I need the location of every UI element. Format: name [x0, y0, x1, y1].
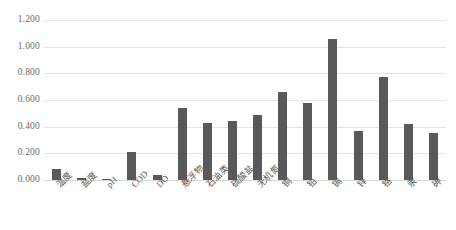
y-axis-tick-label: 0.600: [0, 95, 40, 105]
x-axis: 温度盐度pHCODDO悬浮物石油类硫酸盐无机氮铜铅镉锌铬汞砷: [44, 180, 446, 230]
bar: [278, 92, 287, 180]
bars-layer: [44, 20, 446, 180]
y-axis: 0.0000.2000.4000.6000.8001.0001.200: [0, 20, 40, 180]
bar: [178, 108, 187, 180]
bar: [379, 77, 388, 180]
bar: [354, 131, 363, 180]
y-axis-tick-label: 1.200: [0, 15, 40, 25]
bar: [429, 133, 438, 180]
y-axis-tick-label: 1.000: [0, 42, 40, 52]
bar: [328, 39, 337, 180]
y-axis-tick-label: 0.400: [0, 122, 40, 132]
bar: [404, 124, 413, 180]
y-axis-tick-label: 0.800: [0, 69, 40, 79]
bar: [303, 103, 312, 180]
y-axis-tick-label: 0.000: [0, 175, 40, 185]
bar-chart: 0.0000.2000.4000.6000.8001.0001.200 温度盐度…: [0, 0, 456, 230]
y-axis-tick-label: 0.200: [0, 149, 40, 159]
